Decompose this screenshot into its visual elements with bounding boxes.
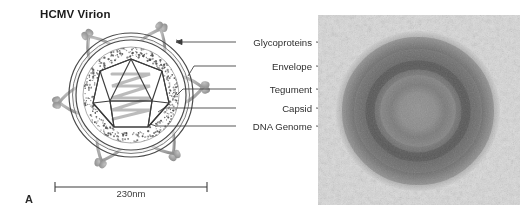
callout-label-capsid: Capsid [160, 103, 312, 114]
electron-micrograph [318, 15, 520, 205]
callout-label-dna-genome: DNA Genome [160, 121, 312, 132]
callout-label-glycoproteins: Glycoproteins [160, 37, 312, 48]
callout-label-tegument: Tegument [160, 84, 312, 95]
figure-panel: HCMV Virion A [0, 0, 531, 221]
callout-label-envelope: Envelope [160, 61, 312, 72]
